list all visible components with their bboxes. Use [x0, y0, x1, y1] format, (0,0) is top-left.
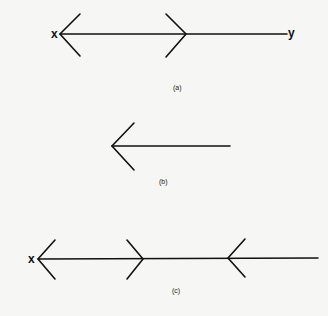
label-x-a: x [51, 27, 58, 41]
chevron-c-right-icon [127, 240, 143, 279]
caption-a: (a) [173, 84, 182, 91]
caption-c: (c) [172, 287, 180, 294]
chevron-a-right-icon [166, 14, 186, 57]
label-x-c: x [28, 252, 35, 266]
caption-b: (b) [159, 178, 168, 185]
arrowhead-a-left-icon [60, 14, 80, 56]
label-y-a: y [288, 26, 295, 40]
diagram-canvas [0, 0, 328, 316]
line-c [38, 258, 318, 259]
